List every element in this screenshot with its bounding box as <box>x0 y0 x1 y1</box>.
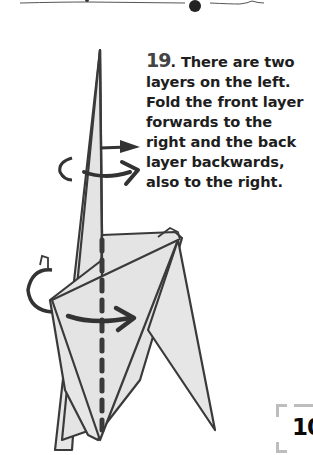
divider-dot-icon <box>189 0 201 12</box>
step-instruction: 19. There are two layers on the left. Fo… <box>146 50 311 192</box>
bracket-corner-icon <box>276 442 287 453</box>
step-text: There are two layers on the left. Fold t… <box>146 53 303 190</box>
top-divider <box>0 0 313 14</box>
page-number: 10 <box>292 414 313 440</box>
bracket-edge-icon <box>294 404 313 407</box>
step-number: 19 <box>146 49 170 71</box>
page-number-marker: 10 <box>276 404 313 454</box>
bracket-corner-icon <box>276 404 287 417</box>
